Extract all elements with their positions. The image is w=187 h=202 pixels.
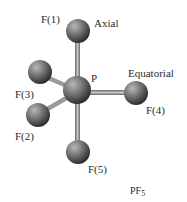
atom-p xyxy=(63,76,91,104)
formula-subscript: 5 xyxy=(141,189,145,198)
label-axial: Axial xyxy=(94,18,118,29)
label-f1: F(1) xyxy=(41,14,60,25)
label-p: P xyxy=(91,73,97,84)
formula-label: PF5 xyxy=(130,186,145,198)
label-f2: F(2) xyxy=(15,131,34,142)
label-f4: F(4) xyxy=(146,105,165,116)
atom-f3 xyxy=(28,60,52,84)
formula-main: PF xyxy=(130,185,141,196)
atom-f1 xyxy=(66,19,90,43)
atom-f2 xyxy=(26,103,50,127)
bond-p-f4 xyxy=(85,90,130,95)
label-f5: F(5) xyxy=(88,164,107,175)
atom-f4 xyxy=(124,81,148,105)
atoms xyxy=(26,19,148,164)
atom-f5 xyxy=(66,140,90,164)
label-f3: F(3) xyxy=(15,89,34,100)
label-equatorial: Equatorial xyxy=(128,68,174,79)
